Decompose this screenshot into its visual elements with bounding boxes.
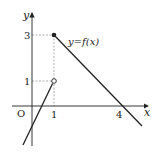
- y-tick-1: 1: [24, 76, 30, 87]
- x-tick-4: 4: [116, 109, 122, 120]
- y-axis-label: y: [22, 9, 30, 22]
- origin-label: O: [17, 108, 25, 119]
- x-tick-1: 1: [51, 109, 57, 120]
- function-graph: y x O 3 1 1 4 y=f(x): [0, 0, 159, 159]
- graph-segment-left: [23, 84, 53, 146]
- open-point-1-1: [52, 79, 57, 84]
- x-axis-label: x: [144, 106, 151, 119]
- curve-label: y=f(x): [67, 36, 99, 47]
- closed-point-1-3: [52, 33, 57, 38]
- graph-segment-right: [54, 35, 142, 126]
- y-tick-3: 3: [24, 30, 30, 41]
